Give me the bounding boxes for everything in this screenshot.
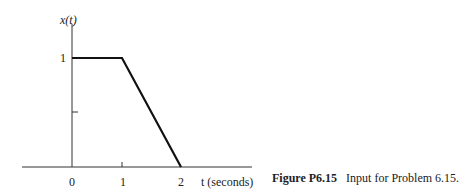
figure-number: Figure P6.15 [272,171,337,185]
caption-text: Input for Problem 6.15. [346,171,459,185]
signal-line [72,58,181,167]
y-tick-label-1: 1 [60,52,66,64]
figure-caption: Figure P6.15 Input for Problem 6.15. [272,172,462,185]
y-axis-label: x(t) [60,14,77,26]
x-axis-label: t (seconds) [201,176,253,188]
x-tick-label-1: 1 [120,176,126,188]
x-tick-label-0: 0 [69,176,75,188]
x-tick-label-2: 2 [178,176,184,188]
plot-area [0,0,462,194]
